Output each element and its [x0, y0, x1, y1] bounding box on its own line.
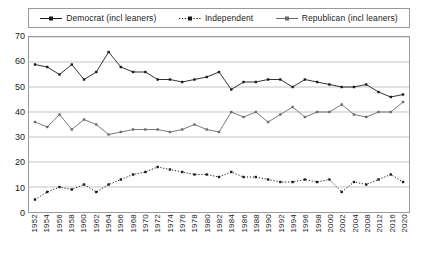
data-point-marker — [267, 78, 269, 80]
data-point-marker — [291, 86, 293, 88]
data-point-marker — [267, 178, 269, 180]
data-point-marker — [206, 76, 208, 78]
x-axis-tick-label: 1960 — [79, 214, 88, 233]
x-axis: 1952195419561958196019621964196619681970… — [28, 214, 410, 254]
data-point-marker — [242, 81, 244, 83]
data-point-marker — [390, 96, 392, 98]
x-axis-tick-label: 1968 — [128, 214, 137, 233]
data-point-marker — [279, 113, 281, 115]
y-axis-tick-label: 60 — [15, 56, 25, 66]
gridlines — [29, 37, 409, 187]
x-axis-tick-label: 1958 — [67, 214, 76, 233]
data-point-marker — [353, 113, 355, 115]
legend-swatch-democrat-solid-line-icon — [40, 15, 62, 22]
x-axis-tick-label: 2000 — [326, 214, 335, 233]
data-point-marker — [206, 128, 208, 130]
data-point-marker — [193, 173, 195, 175]
x-axis-tick-label: 1976 — [178, 214, 187, 233]
data-point-marker — [218, 176, 220, 178]
data-point-marker — [58, 113, 60, 115]
data-point-marker — [95, 191, 97, 193]
data-point-marker — [316, 111, 318, 113]
data-point-marker — [132, 173, 134, 175]
data-point-marker — [181, 128, 183, 130]
x-axis-tick-label: 1982 — [215, 214, 224, 233]
data-point-marker — [120, 178, 122, 180]
data-point-marker — [377, 178, 379, 180]
data-point-marker — [279, 181, 281, 183]
data-point-marker — [255, 81, 257, 83]
x-axis-tick-label: 1980 — [202, 214, 211, 233]
data-point-marker — [34, 63, 36, 65]
data-point-marker — [365, 116, 367, 118]
data-point-marker — [353, 86, 355, 88]
plot-area — [28, 36, 410, 213]
data-point-marker — [181, 81, 183, 83]
data-point-marker — [58, 186, 60, 188]
series-lines — [34, 51, 404, 201]
x-axis-tick-label: 1992 — [276, 214, 285, 233]
x-axis-tick-label: 2012 — [375, 214, 384, 233]
data-point-marker — [291, 106, 293, 108]
data-point-marker — [230, 111, 232, 113]
data-point-marker — [46, 66, 48, 68]
data-point-marker — [377, 111, 379, 113]
series-3 — [34, 101, 404, 136]
data-point-marker — [402, 93, 404, 95]
x-axis-tick-label: 1978 — [190, 214, 199, 233]
x-axis-tick-label: 1954 — [42, 214, 51, 233]
x-axis-tick-label: 1994 — [289, 214, 298, 233]
x-axis-tick-label: 2008 — [363, 214, 372, 233]
data-point-marker — [107, 133, 109, 135]
data-point-marker — [365, 183, 367, 185]
data-point-marker — [156, 128, 158, 130]
x-axis-tick-label: 1966 — [116, 214, 125, 233]
data-point-marker — [340, 103, 342, 105]
x-axis-tick-label: 1956 — [54, 214, 63, 233]
data-point-marker — [304, 178, 306, 180]
data-point-marker — [304, 116, 306, 118]
data-point-marker — [316, 181, 318, 183]
x-axis-tick-label: 1988 — [252, 214, 261, 233]
data-point-marker — [71, 188, 73, 190]
legend-item-republican: Republican (incl leaners) — [276, 13, 398, 23]
data-point-marker — [279, 78, 281, 80]
data-point-marker — [107, 183, 109, 185]
y-axis: 706050403020100 — [0, 36, 25, 213]
data-point-marker — [71, 128, 73, 130]
legend-label-republican: Republican (incl leaners) — [302, 13, 398, 23]
data-point-marker — [316, 81, 318, 83]
data-point-marker — [255, 111, 257, 113]
y-axis-tick-label: 70 — [15, 31, 25, 41]
data-point-marker — [242, 176, 244, 178]
plot-svg — [29, 37, 409, 212]
data-point-marker — [120, 66, 122, 68]
series-line — [35, 102, 403, 135]
data-point-marker — [218, 131, 220, 133]
data-point-marker — [83, 78, 85, 80]
data-point-marker — [402, 101, 404, 103]
data-point-marker — [83, 118, 85, 120]
data-point-marker — [291, 181, 293, 183]
legend-item-democrat: Democrat (incl leaners) — [40, 13, 156, 23]
data-point-marker — [34, 198, 36, 200]
data-point-marker — [144, 171, 146, 173]
data-point-marker — [390, 173, 392, 175]
data-point-marker — [132, 71, 134, 73]
y-axis-tick-label: 10 — [15, 183, 25, 193]
data-point-marker — [304, 78, 306, 80]
x-axis-tick-label: 1952 — [30, 214, 39, 233]
x-axis-tick-label: 2004 — [350, 214, 359, 233]
data-point-marker — [46, 126, 48, 128]
x-axis-tick-label: 1972 — [153, 214, 162, 233]
y-axis-tick-label: 50 — [15, 82, 25, 92]
data-point-marker — [95, 71, 97, 73]
data-point-marker — [218, 71, 220, 73]
data-point-marker — [255, 176, 257, 178]
y-axis-tick-label: 30 — [15, 132, 25, 142]
x-axis-tick-label: 1998 — [313, 214, 322, 233]
x-axis-tick-label: 1990 — [264, 214, 273, 233]
data-point-marker — [34, 121, 36, 123]
series-2 — [34, 166, 404, 201]
data-point-marker — [340, 86, 342, 88]
